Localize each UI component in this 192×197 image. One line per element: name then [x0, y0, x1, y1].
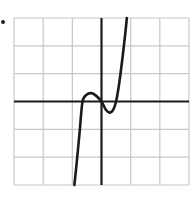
cubic-function-graph — [0, 0, 192, 197]
